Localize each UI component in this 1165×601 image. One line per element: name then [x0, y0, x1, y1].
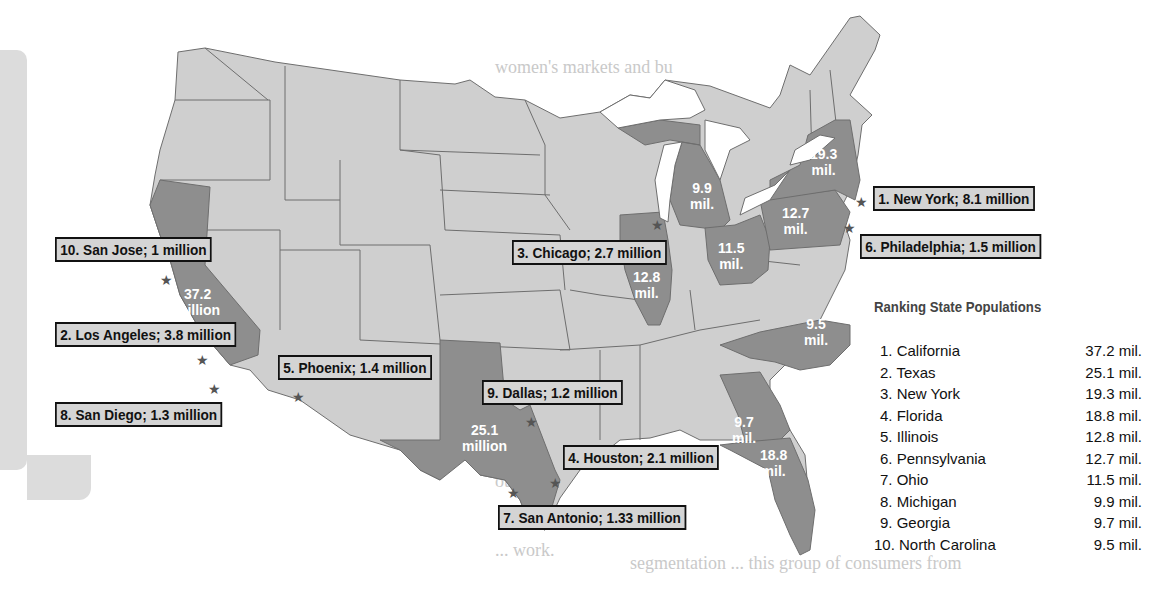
- legend-state: 1. California: [874, 340, 960, 362]
- city-label-philadelphia: 6. Philadelphia; 1.5 million: [860, 234, 1041, 259]
- star-icon-dallas: ★: [525, 414, 538, 430]
- legend-state: 3. New York: [874, 383, 960, 405]
- pop-unit: million: [462, 438, 507, 454]
- pop-unit: mil.: [810, 162, 837, 178]
- legend-item: 5. Illinois12.8 mil.: [874, 426, 1142, 448]
- legend-value: 18.8 mil.: [1062, 405, 1142, 427]
- state-pop-georgia: 9.7 mil.: [732, 414, 756, 446]
- state-pop-illinois: 12.8 mil.: [633, 269, 660, 301]
- legend-state: 6. Pennsylvania: [874, 448, 986, 470]
- pop-unit: mil.: [732, 430, 756, 446]
- pop-value: 11.5: [718, 240, 744, 256]
- legend-item: 10. North Carolina9.5 mil.: [874, 534, 1142, 556]
- state-pop-michigan: 9.9 mil.: [690, 180, 714, 212]
- legend-value: 9.9 mil.: [1062, 491, 1142, 513]
- pop-value: 9.9: [690, 180, 714, 196]
- city-label-dallas: 9. Dallas; 1.2 million: [482, 380, 623, 405]
- legend-item: 2. Texas25.1 mil.: [874, 362, 1142, 384]
- city-label-los-angeles: 2. Los Angeles; 3.8 million: [55, 322, 236, 347]
- pop-unit: mil.: [782, 221, 809, 237]
- star-icon-houston: ★: [549, 475, 562, 491]
- city-label-chicago: 3. Chicago; 2.7 million: [512, 240, 667, 265]
- pop-value: 12.7: [782, 205, 809, 221]
- legend-item: 4. Florida18.8 mil.: [874, 405, 1142, 427]
- legend-state: 4. Florida: [874, 405, 943, 427]
- pop-value: 25.1: [462, 422, 507, 438]
- pop-value: 18.8: [760, 447, 787, 463]
- city-label-phoenix: 5. Phoenix; 1.4 million: [278, 355, 432, 380]
- star-icon-philadelphia: ★: [843, 220, 856, 236]
- legend-state: 10. North Carolina: [874, 534, 996, 556]
- star-icon-san-antonio: ★: [507, 485, 520, 501]
- state-pop-florida: 18.8 mil.: [760, 447, 787, 479]
- legend-item: 1. California37.2 mil.: [874, 340, 1142, 362]
- state-pop-california: 37.2 million: [175, 286, 220, 318]
- legend-title: Ranking State Populations: [874, 298, 1129, 315]
- legend-state: 8. Michigan: [874, 491, 957, 513]
- star-icon-san-jose: ★: [160, 272, 173, 288]
- pop-unit: million: [175, 302, 220, 318]
- state-pop-new-york: 19.3 mil.: [810, 146, 837, 178]
- city-label-san-diego: 8. San Diego; 1.3 million: [55, 402, 222, 427]
- legend-state: 9. Georgia: [874, 512, 950, 534]
- star-icon-chicago: ★: [651, 217, 664, 233]
- legend-state: 5. Illinois: [874, 426, 938, 448]
- pop-unit: mil.: [690, 196, 714, 212]
- star-icon-new-york: ★: [855, 194, 868, 210]
- legend-value: 12.8 mil.: [1062, 426, 1142, 448]
- legend-state: 2. Texas: [874, 362, 936, 384]
- legend-item: 6. Pennsylvania12.7 mil.: [874, 448, 1142, 470]
- legend-value: 11.5 mil.: [1062, 469, 1142, 491]
- city-label-new-york: 1. New York; 8.1 million: [873, 186, 1035, 211]
- legend-item: 7. Ohio11.5 mil.: [874, 469, 1142, 491]
- star-icon-los-angeles: ★: [196, 352, 209, 368]
- pop-value: 9.7: [732, 414, 756, 430]
- state-pop-north-carolina: 9.5 mil.: [804, 316, 828, 348]
- pop-value: 37.2: [175, 286, 220, 302]
- state-pop-ohio: 11.5 mil.: [718, 240, 744, 272]
- pop-unit: mil.: [718, 256, 744, 272]
- pop-value: 9.5: [804, 316, 828, 332]
- legend-value: 9.7 mil.: [1062, 512, 1142, 534]
- state-pop-pennsylvania: 12.7 mil.: [782, 205, 809, 237]
- city-label-san-antonio: 7. San Antonio; 1.33 million: [498, 505, 686, 530]
- pop-value: 19.3: [810, 146, 837, 162]
- star-icon-san-diego: ★: [208, 381, 221, 397]
- state-pop-texas: 25.1 million: [462, 422, 507, 454]
- legend-value: 19.3 mil.: [1062, 383, 1142, 405]
- legend-list: 1. California37.2 mil. 2. Texas25.1 mil.…: [874, 340, 1164, 555]
- legend-value: 9.5 mil.: [1062, 534, 1142, 556]
- city-label-houston: 4. Houston; 2.1 million: [563, 445, 719, 470]
- star-icon-phoenix: ★: [292, 389, 305, 405]
- city-label-san-jose: 10. San Jose; 1 million: [55, 237, 212, 262]
- pop-unit: mil.: [804, 332, 828, 348]
- pop-unit: mil.: [633, 285, 660, 301]
- pop-unit: mil.: [760, 463, 787, 479]
- legend-state: 7. Ohio: [874, 469, 928, 491]
- legend-value: 37.2 mil.: [1062, 340, 1142, 362]
- legend-item: 9. Georgia9.7 mil.: [874, 512, 1142, 534]
- ranking-legend: Ranking State Populations 1. California3…: [874, 298, 1164, 555]
- legend-value: 12.7 mil.: [1062, 448, 1142, 470]
- legend-item: 8. Michigan9.9 mil.: [874, 491, 1142, 513]
- legend-item: 3. New York19.3 mil.: [874, 383, 1142, 405]
- legend-value: 25.1 mil.: [1062, 362, 1142, 384]
- pop-value: 12.8: [633, 269, 660, 285]
